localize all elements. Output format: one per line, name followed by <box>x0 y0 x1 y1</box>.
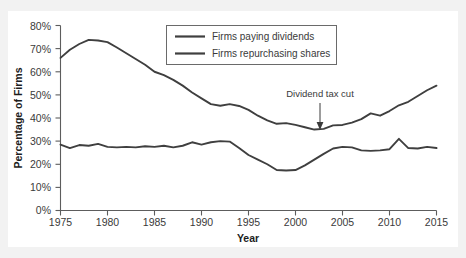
legend-label-firms-paying-dividends: Firms paying dividends <box>212 31 314 42</box>
x-tick-label-2005: 2005 <box>331 216 355 228</box>
y-tick-label-60: 60% <box>30 66 51 78</box>
y-tick-label-30: 30% <box>30 135 51 147</box>
y-tick-label-10: 10% <box>30 181 51 193</box>
annotation-label: Dividend tax cut <box>286 88 354 99</box>
series-line-firms-repurchasing-shares <box>61 139 437 171</box>
legend-label-firms-repurchasing-shares: Firms repurchasing shares <box>212 48 330 59</box>
x-axis-title: Year <box>237 232 259 244</box>
y-tick-label-50: 50% <box>30 89 51 101</box>
y-tick-label-20: 20% <box>30 158 51 170</box>
y-tick-label-80: 80% <box>30 20 51 32</box>
x-tick-label-1980: 1980 <box>96 216 120 228</box>
x-tick-label-1990: 1990 <box>190 216 214 228</box>
chart-figure-background: 80% 70% 60% 50% 40% 30% 20% 10% 0% 1975 … <box>0 0 466 258</box>
x-tick-label-1995: 1995 <box>237 216 261 228</box>
x-axis-ticks <box>61 211 437 216</box>
x-tick-label-2000: 2000 <box>284 216 308 228</box>
chart-legend: Firms paying dividends Firms repurchasin… <box>167 26 337 65</box>
y-axis-title: Percentage of Firms <box>12 67 24 168</box>
y-tick-label-0: 0% <box>36 204 51 216</box>
x-tick-label-1975: 1975 <box>49 216 73 228</box>
x-tick-label-2015: 2015 <box>425 216 449 228</box>
y-axis-ticks <box>56 26 61 211</box>
line-chart: 80% 70% 60% 50% 40% 30% 20% 10% 0% 1975 … <box>0 0 466 258</box>
x-tick-label-2010: 2010 <box>378 216 402 228</box>
x-tick-label-1985: 1985 <box>143 216 167 228</box>
y-tick-label-40: 40% <box>30 112 51 124</box>
y-tick-label-70: 70% <box>30 43 51 55</box>
